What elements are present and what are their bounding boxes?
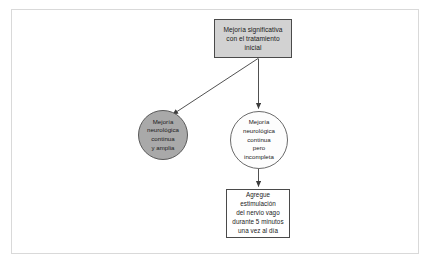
node-full-recovery-label: Mejoría neurológica continua y amplia — [139, 118, 187, 153]
node-full-recovery: Mejoría neurológica continua y amplia — [138, 110, 188, 160]
node-partial-recovery-label: Mejoría neurológica continua pero incomp… — [231, 118, 287, 161]
node-initial-improvement-label: Mejoría significativa con el tratamiento… — [215, 25, 291, 52]
node-vagus-stimulation: Agregue estimulación del nervio vago dur… — [226, 189, 290, 238]
node-vagus-stimulation-label: Agregue estimulación del nervio vago dur… — [227, 191, 289, 236]
diagram-page: Mejoría significativa con el tratamiento… — [0, 0, 431, 265]
node-partial-recovery: Mejoría neurológica continua pero incomp… — [230, 111, 288, 169]
connector-initial-to-full-recovery — [173, 59, 259, 115]
node-initial-improvement: Mejoría significativa con el tratamiento… — [214, 19, 292, 58]
